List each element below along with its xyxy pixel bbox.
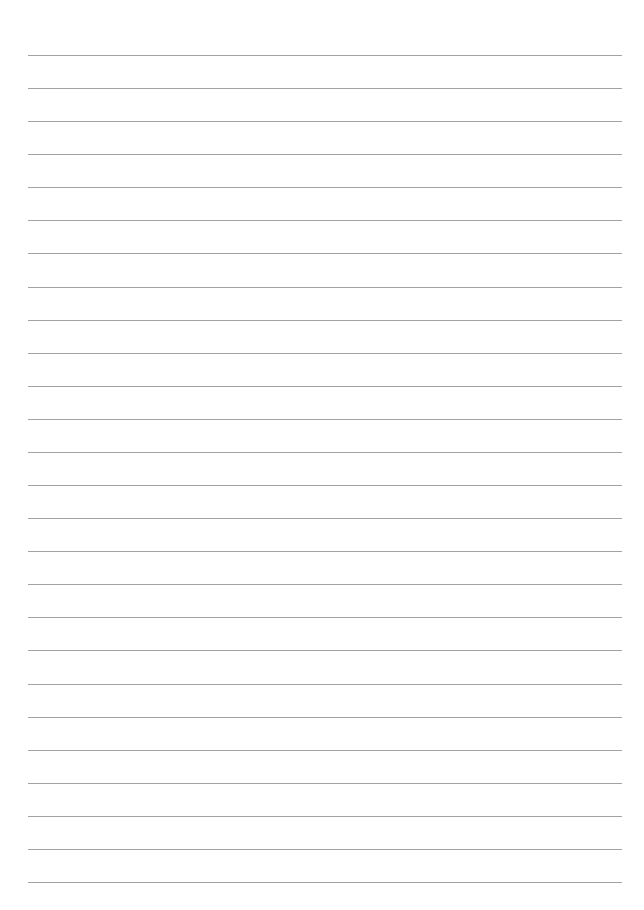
ruled-line xyxy=(28,220,622,221)
ruled-line xyxy=(28,121,622,122)
ruled-line xyxy=(28,816,622,817)
ruled-line xyxy=(28,452,622,453)
ruled-line xyxy=(28,717,622,718)
ruled-line xyxy=(28,353,622,354)
ruled-line xyxy=(28,882,622,883)
ruled-line xyxy=(28,783,622,784)
ruled-line xyxy=(28,320,622,321)
ruled-line xyxy=(28,650,622,651)
lined-paper-page xyxy=(0,0,644,910)
ruled-line xyxy=(28,849,622,850)
ruled-line xyxy=(28,485,622,486)
ruled-line xyxy=(28,386,622,387)
ruled-line xyxy=(28,253,622,254)
ruled-line xyxy=(28,684,622,685)
ruled-line xyxy=(28,584,622,585)
ruled-line xyxy=(28,88,622,89)
ruled-line xyxy=(28,187,622,188)
ruled-line xyxy=(28,750,622,751)
ruled-line xyxy=(28,551,622,552)
ruled-line xyxy=(28,154,622,155)
ruled-line xyxy=(28,617,622,618)
ruled-line xyxy=(28,287,622,288)
ruled-line xyxy=(28,419,622,420)
ruled-line xyxy=(28,55,622,56)
ruled-line xyxy=(28,518,622,519)
